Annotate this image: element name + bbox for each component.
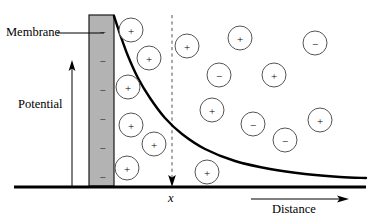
membrane-negative-charge: − [99,171,105,183]
membrane-negative-charge: − [99,142,105,154]
potential-axis-label: Potential [18,98,62,111]
membrane-label: Membrane [6,26,60,39]
ion-charge-sign: − [250,119,256,131]
membrane-negative-charge: − [99,26,105,38]
cation-circle: + [195,160,219,184]
anion-circle: − [273,128,297,152]
cation-circle: + [119,113,143,137]
cation-circle: + [119,18,143,42]
cation-circle: + [142,132,166,156]
cation-circle: + [137,46,161,70]
ion-charge-sign: + [271,70,277,82]
x-marker-line [168,15,176,187]
ion-charge-sign: − [216,70,222,82]
membrane-slab: −−−−−− [89,15,114,186]
ion-charge-sign: + [204,167,210,179]
ion-charge-sign: + [209,105,215,117]
membrane-negative-charge: − [99,55,105,67]
membrane-negative-charge: − [99,84,105,96]
cation-circle: + [308,108,332,132]
ion-charge-sign: − [312,38,318,50]
ion-charge-sign: + [124,163,130,175]
cation-circle: + [115,156,139,180]
ion-charge-sign: + [128,25,134,37]
ion-charge-sign: + [317,115,323,127]
ion-charge-sign: − [282,135,288,147]
anion-circle: − [241,112,265,136]
cation-circle: + [228,26,252,50]
x-position-label: x [168,192,174,205]
ion-charge-sign: + [128,120,134,132]
membrane-negative-charge: − [99,113,105,125]
ion-charge-sign: + [125,82,131,94]
membrane-rect [89,15,114,186]
ion-layer: +++++++−++++−−−+ [115,18,332,184]
ion-charge-sign: + [237,33,243,45]
potential-axis-arrow [69,60,76,186]
ion-charge-sign: + [151,139,157,151]
cation-circle: + [116,75,140,99]
ion-charge-sign: + [146,53,152,65]
anion-circle: − [303,31,327,55]
cation-circle: + [200,98,224,122]
membrane-potential-figure: −−−−−− +++++++−++++−−−+ Membrane Potenti… [0,0,379,221]
distance-axis-label: Distance [272,203,316,216]
cation-circle: + [175,34,199,58]
anion-circle: − [207,63,231,87]
cation-circle: + [262,63,286,87]
ion-charge-sign: + [184,41,190,53]
